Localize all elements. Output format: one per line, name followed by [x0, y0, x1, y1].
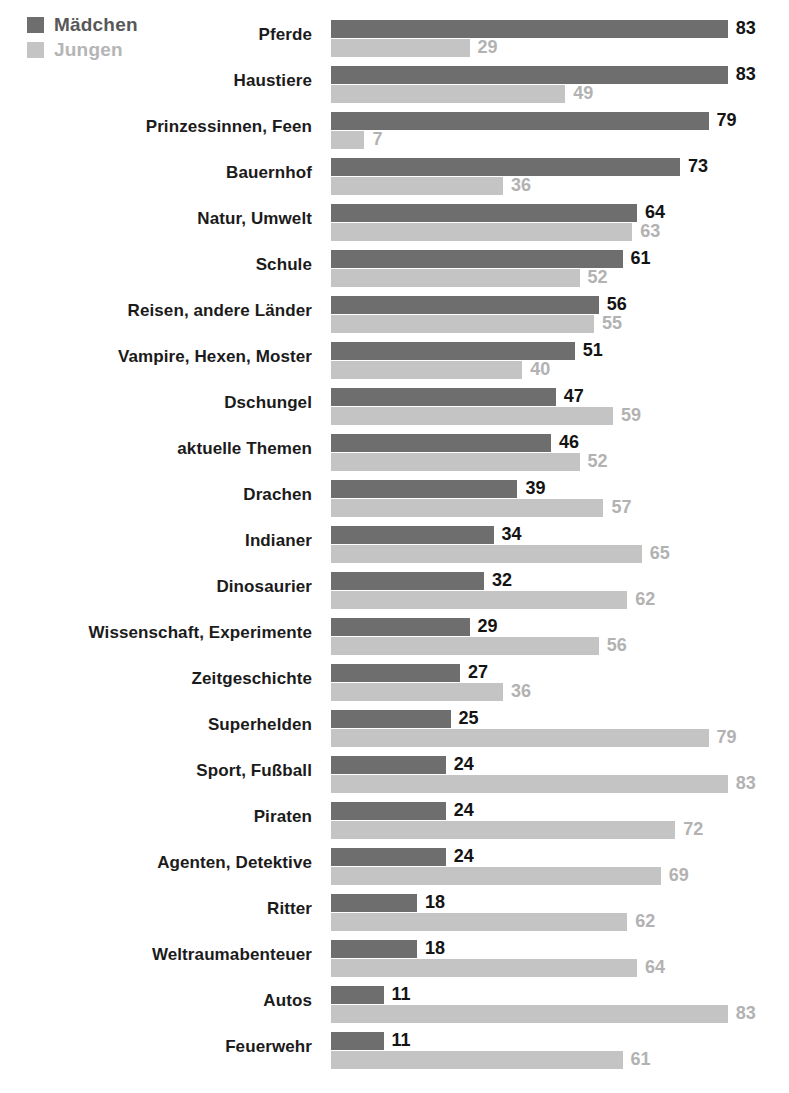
category-label: Drachen [243, 485, 312, 505]
bar-row: Dschungel4759 [0, 386, 789, 432]
bar-boys [331, 1005, 728, 1023]
bar-girls [331, 1032, 384, 1050]
bar-group: 2736 [331, 662, 789, 708]
bar-line-boys: 36 [331, 177, 789, 195]
bar-group: 2472 [331, 800, 789, 846]
bar-boys [331, 591, 627, 609]
bar-value-girls: 83 [736, 65, 756, 84]
bar-row: Pferde8329 [0, 18, 789, 64]
bar-boys [331, 499, 603, 517]
bar-girls [331, 20, 728, 38]
bar-value-boys: 59 [621, 406, 641, 425]
bar-girls [331, 342, 575, 360]
bar-girls [331, 848, 446, 866]
bar-group: 3465 [331, 524, 789, 570]
bar-row: Reisen, andere Länder5655 [0, 294, 789, 340]
bar-girls [331, 940, 417, 958]
bar-line-boys: 49 [331, 85, 789, 103]
bar-group: 4759 [331, 386, 789, 432]
bar-value-boys: 52 [588, 452, 608, 471]
bar-row: Piraten2472 [0, 800, 789, 846]
bar-girls [331, 526, 494, 544]
bar-boys [331, 269, 580, 287]
bar-boys [331, 453, 580, 471]
bar-line-boys: 64 [331, 959, 789, 977]
bar-line-boys: 69 [331, 867, 789, 885]
bar-value-girls: 11 [392, 1031, 411, 1050]
bar-line-boys: 62 [331, 591, 789, 609]
bar-value-boys: 83 [736, 774, 756, 793]
bar-line-girls: 24 [331, 848, 789, 866]
bar-group: 3957 [331, 478, 789, 524]
bar-row: Schule6152 [0, 248, 789, 294]
bar-girls [331, 66, 728, 84]
bar-group: 2469 [331, 846, 789, 892]
bar-value-girls: 18 [425, 893, 445, 912]
bar-line-boys: 55 [331, 315, 789, 333]
category-label: Agenten, Detektive [157, 853, 312, 873]
bar-row: Agenten, Detektive2469 [0, 846, 789, 892]
bar-girls [331, 894, 417, 912]
bar-row: Superhelden2579 [0, 708, 789, 754]
bar-girls [331, 986, 384, 1004]
bar-value-boys: 7 [372, 130, 382, 149]
bar-girls [331, 250, 623, 268]
bar-line-girls: 11 [331, 1032, 789, 1050]
bar-value-boys: 61 [631, 1050, 651, 1069]
bar-boys [331, 959, 637, 977]
bar-line-girls: 61 [331, 250, 789, 268]
bar-row: Sport, Fußball2483 [0, 754, 789, 800]
bar-row: Weltraumabenteuer1864 [0, 938, 789, 984]
bar-group: 1183 [331, 984, 789, 1030]
bar-value-girls: 11 [392, 985, 411, 1004]
bar-line-boys: 83 [331, 775, 789, 793]
bar-boys [331, 683, 503, 701]
bar-value-boys: 83 [736, 1004, 756, 1023]
bar-line-boys: 29 [331, 39, 789, 57]
bar-row: aktuelle Themen4652 [0, 432, 789, 478]
bar-value-boys: 65 [650, 544, 670, 563]
bar-line-girls: 83 [331, 20, 789, 38]
bar-value-girls: 73 [688, 157, 708, 176]
bar-value-girls: 83 [736, 19, 756, 38]
bar-girls [331, 664, 460, 682]
bar-line-girls: 46 [331, 434, 789, 452]
bar-row: Haustiere8349 [0, 64, 789, 110]
bar-value-girls: 56 [607, 295, 627, 314]
bar-value-girls: 51 [583, 341, 603, 360]
category-label: Autos [263, 991, 312, 1011]
bar-line-boys: 52 [331, 269, 789, 287]
bar-row: Drachen3957 [0, 478, 789, 524]
bar-line-girls: 24 [331, 802, 789, 820]
bar-boys [331, 729, 709, 747]
bar-line-girls: 25 [331, 710, 789, 728]
bar-value-boys: 36 [511, 176, 531, 195]
bar-group: 1862 [331, 892, 789, 938]
category-label: Piraten [254, 807, 312, 827]
bar-value-girls: 27 [468, 663, 488, 682]
bar-value-girls: 46 [559, 433, 579, 452]
category-label: Ritter [267, 899, 312, 919]
bar-boys [331, 85, 565, 103]
bar-line-girls: 47 [331, 388, 789, 406]
bar-value-boys: 55 [602, 314, 622, 333]
bar-row: Autos1183 [0, 984, 789, 1030]
bar-line-boys: 65 [331, 545, 789, 563]
bar-girls [331, 296, 599, 314]
bar-value-girls: 24 [454, 755, 474, 774]
bar-boys [331, 637, 599, 655]
bar-girls [331, 756, 446, 774]
category-label: Indianer [245, 531, 312, 551]
bar-line-boys: 59 [331, 407, 789, 425]
bar-line-girls: 18 [331, 894, 789, 912]
bar-value-girls: 39 [525, 479, 545, 498]
bar-value-girls: 47 [564, 387, 584, 406]
bar-girls [331, 802, 446, 820]
category-label: Wissenschaft, Experimente [89, 623, 312, 643]
bar-line-girls: 73 [331, 158, 789, 176]
bar-group: 2579 [331, 708, 789, 754]
bar-line-boys: 63 [331, 223, 789, 241]
bar-value-boys: 56 [607, 636, 627, 655]
bar-group: 2956 [331, 616, 789, 662]
bar-line-boys: 57 [331, 499, 789, 517]
